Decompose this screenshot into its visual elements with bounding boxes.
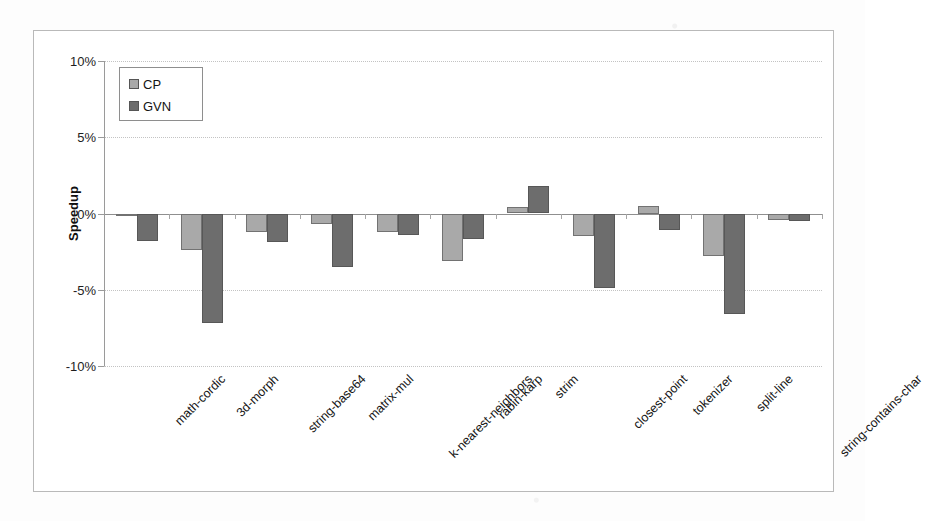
chart-legend: CP GVN bbox=[119, 67, 203, 121]
x-tick-end bbox=[822, 214, 823, 219]
legend-swatch-cp-icon bbox=[129, 79, 139, 89]
x-tick-10 bbox=[757, 214, 758, 219]
legend-label-gvn: GVN bbox=[143, 99, 171, 114]
y-tick-label-5: 5% bbox=[41, 130, 96, 145]
x-tick-2 bbox=[235, 214, 236, 219]
bar-cp-string-contains-char bbox=[768, 214, 789, 220]
y-tick-0 bbox=[98, 214, 104, 215]
bar-cp-math-cordic bbox=[116, 214, 137, 216]
bar-cp-closest-point bbox=[573, 214, 594, 237]
legend-item-gvn: GVN bbox=[129, 95, 202, 117]
bar-gvn-string-contains-char bbox=[789, 214, 810, 222]
bar-gvn-split-line bbox=[724, 214, 745, 315]
y-tick-10 bbox=[98, 61, 104, 62]
bar-cp-k-nearest-neighbors bbox=[377, 214, 398, 232]
bar-gvn-closest-point bbox=[594, 214, 615, 289]
y-axis-title: Speedup bbox=[66, 169, 81, 259]
x-axis-label-closest-point: closest-point bbox=[630, 372, 690, 432]
chart-frame: 10%5%0%-5%-10% Speedup CP GVN math-cordi… bbox=[33, 30, 834, 492]
bar-gvn-math-cordic bbox=[137, 214, 158, 241]
x-axis-labels: math-cordic3d-morphstring-base64matrix-m… bbox=[104, 366, 822, 496]
x-axis-label-math-cordic: math-cordic bbox=[172, 372, 228, 428]
bar-cp-matrix-mul bbox=[311, 214, 332, 225]
y-tick-label--10: -10% bbox=[41, 359, 96, 374]
legend-swatch-gvn-icon bbox=[129, 101, 139, 111]
y-axis-labels: 10%5%0%-5%-10% bbox=[41, 31, 96, 521]
x-tick-7 bbox=[561, 214, 562, 219]
bar-gvn-tokenizer bbox=[659, 214, 680, 231]
x-tick-4 bbox=[365, 214, 366, 219]
x-axis-label-3d-morph: 3d-morph bbox=[234, 372, 282, 420]
bar-gvn-3d-morph bbox=[202, 214, 223, 324]
x-axis-label-string-contains-char: string-contains-char bbox=[838, 372, 925, 460]
bar-gvn-k-nearest-neighbors bbox=[398, 214, 419, 235]
y-tick-5 bbox=[98, 137, 104, 138]
bar-cp-tokenizer bbox=[638, 206, 659, 214]
y-tick-label--5: -5% bbox=[41, 282, 96, 297]
bar-cp-rabin-karp bbox=[442, 214, 463, 261]
y-axis-line bbox=[104, 61, 105, 366]
gridline-10 bbox=[104, 61, 822, 62]
bar-cp-string-base64 bbox=[246, 214, 267, 232]
x-axis-label-string-base64: string-base64 bbox=[305, 372, 368, 435]
gridline-5 bbox=[104, 137, 822, 138]
x-tick-3 bbox=[300, 214, 301, 219]
y-tick--5 bbox=[98, 290, 104, 291]
y-tick-label-10: 10% bbox=[41, 54, 96, 69]
plot-area bbox=[104, 61, 822, 366]
legend-item-cp: CP bbox=[129, 73, 202, 95]
bar-cp-strim bbox=[507, 207, 528, 213]
x-tick-6 bbox=[496, 214, 497, 219]
x-tick-1 bbox=[169, 214, 170, 219]
x-tick-9 bbox=[691, 214, 692, 219]
bar-gvn-matrix-mul bbox=[332, 214, 353, 267]
bar-gvn-strim bbox=[528, 186, 549, 213]
bar-gvn-string-base64 bbox=[267, 214, 288, 243]
bar-gvn-rabin-karp bbox=[463, 214, 484, 240]
x-axis-label-split-line: split-line bbox=[754, 372, 796, 414]
x-axis-label-tokenizer: tokenizer bbox=[690, 372, 736, 418]
x-axis-label-matrix-mul: matrix-mul bbox=[366, 372, 417, 423]
x-axis-label-strim: strim bbox=[552, 372, 581, 401]
x-tick-8 bbox=[626, 214, 627, 219]
x-tick-5 bbox=[430, 214, 431, 219]
bar-cp-3d-morph bbox=[181, 214, 202, 251]
legend-label-cp: CP bbox=[143, 77, 161, 92]
bar-cp-split-line bbox=[703, 214, 724, 257]
